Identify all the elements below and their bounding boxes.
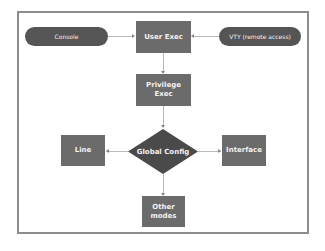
- node-global-config: Global Config: [128, 129, 198, 174]
- connector-globalconfig-line: [106, 151, 128, 152]
- node-privilege-exec: Privilege Exec: [136, 74, 191, 106]
- connector-globalconfig-othermodes: [163, 174, 164, 194]
- node-other-modes: Other modes: [142, 196, 185, 227]
- node-user-exec: User Exec: [136, 21, 191, 53]
- node-interface: Interface: [222, 135, 266, 166]
- node-label: VTY (remote access): [229, 33, 291, 40]
- node-label: Global Config: [137, 148, 190, 156]
- node-label: Privilege Exec: [136, 81, 191, 99]
- arrowhead-icon: [132, 34, 135, 38]
- node-console: Console: [25, 27, 108, 46]
- connector-privexec-globalconfig: [163, 106, 164, 127]
- node-label: Console: [55, 33, 79, 40]
- connector-vty-userexec: [193, 36, 219, 37]
- node-vty: VTY (remote access): [219, 27, 301, 46]
- node-label-line2: modes: [150, 212, 176, 221]
- arrowhead-icon: [106, 149, 109, 153]
- connector-console-userexec: [108, 36, 134, 37]
- node-label: Line: [75, 146, 92, 155]
- node-label-line1: Other: [152, 203, 174, 212]
- node-label: Interface: [226, 146, 262, 155]
- arrowhead-icon: [191, 34, 194, 38]
- node-label: User Exec: [144, 33, 183, 42]
- arrowhead-icon: [161, 125, 165, 128]
- arrowhead-icon: [218, 149, 221, 153]
- connector-userexec-privexec: [163, 53, 164, 72]
- node-line: Line: [61, 135, 105, 166]
